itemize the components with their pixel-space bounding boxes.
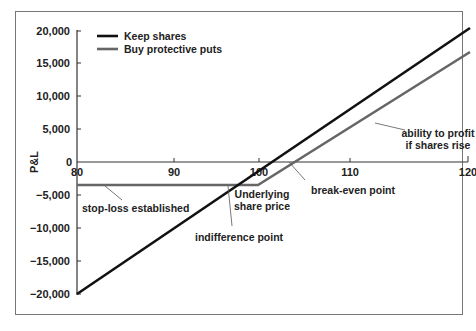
y-tick: −20,000 bbox=[30, 288, 70, 300]
x-tick: 110 bbox=[341, 166, 359, 178]
legend-buy-protective-puts: Buy protective puts bbox=[124, 43, 222, 55]
annotation-profit-2: if shares rise bbox=[406, 139, 471, 151]
y-tick: −10,000 bbox=[30, 222, 70, 234]
y-tick: 10,000 bbox=[36, 90, 70, 102]
annotation-underlying-2: share price bbox=[234, 200, 290, 212]
y-tick: 5,000 bbox=[42, 123, 70, 135]
series-keep-shares bbox=[77, 28, 470, 294]
y-axis-label: P&L bbox=[28, 151, 40, 173]
y-tick: −5,000 bbox=[36, 189, 70, 201]
annotation-underlying-1: Underlying bbox=[235, 188, 290, 200]
pnl-chart: 20,000 15,000 10,000 5,000 0 −5,000 −10,… bbox=[0, 0, 476, 331]
legend-keep-shares: Keep shares bbox=[124, 30, 187, 42]
y-tick: −15,000 bbox=[30, 255, 70, 267]
series-buy-protective-puts bbox=[77, 52, 470, 185]
x-tick: 120 bbox=[459, 166, 476, 178]
annotation-break-even: break-even point bbox=[311, 184, 396, 196]
annotation-profit-1: ability to profit bbox=[402, 127, 475, 139]
y-tick: 15,000 bbox=[36, 57, 70, 69]
annotation-indifference: indifference point bbox=[195, 231, 284, 243]
x-tick: 90 bbox=[168, 166, 180, 178]
y-tick: 20,000 bbox=[36, 25, 70, 37]
x-tick: 80 bbox=[71, 166, 83, 178]
annotation-stop-loss: stop-loss established bbox=[82, 202, 189, 214]
